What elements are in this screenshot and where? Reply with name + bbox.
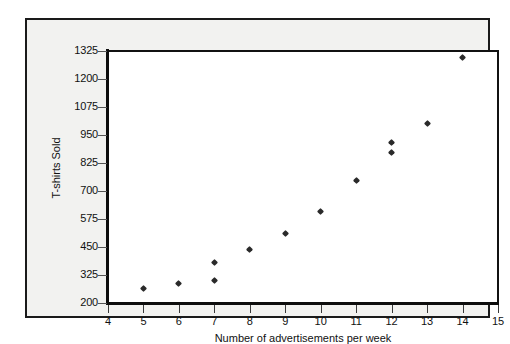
x-tick-mark bbox=[498, 305, 499, 313]
y-tick-mark bbox=[98, 247, 107, 248]
y-tick-mark bbox=[98, 107, 107, 108]
x-tick-label: 10 bbox=[306, 315, 336, 327]
x-tick-label: 5 bbox=[128, 315, 158, 327]
y-tick-label: 325 bbox=[36, 269, 98, 280]
plot-border-top bbox=[108, 50, 499, 52]
x-tick-mark bbox=[356, 305, 357, 313]
y-tick-label-wrap: 200 bbox=[27, 297, 98, 308]
x-tick-mark bbox=[250, 305, 251, 313]
x-tick-mark bbox=[285, 305, 286, 313]
y-tick-label: 200 bbox=[36, 297, 98, 308]
x-axis-label: Number of advertisements per week bbox=[108, 332, 498, 344]
x-tick-label: 7 bbox=[199, 315, 229, 327]
x-tick-mark bbox=[392, 305, 393, 313]
x-tick-label: 11 bbox=[341, 315, 371, 327]
x-tick-label: 4 bbox=[93, 315, 123, 327]
y-tick-label: 1325 bbox=[36, 45, 98, 56]
y-tick-mark bbox=[98, 219, 107, 220]
x-tick-label: 12 bbox=[377, 315, 407, 327]
x-tick-mark bbox=[179, 305, 180, 313]
x-tick-mark bbox=[108, 305, 109, 313]
y-tick-label: 1200 bbox=[36, 73, 98, 84]
y-tick-label-wrap: 325 bbox=[27, 269, 98, 280]
x-tick-mark bbox=[143, 305, 144, 313]
y-tick-mark bbox=[98, 191, 107, 192]
y-tick-label-wrap: 450 bbox=[27, 241, 98, 252]
y-tick-label: 700 bbox=[36, 185, 98, 196]
y-tick-label: 950 bbox=[36, 129, 98, 140]
y-tick-label: 575 bbox=[36, 213, 98, 224]
x-tick-label: 14 bbox=[448, 315, 478, 327]
x-tick-mark bbox=[463, 305, 464, 313]
x-tick-mark bbox=[321, 305, 322, 313]
x-tick-label: 8 bbox=[235, 315, 265, 327]
x-tick-label: 15 bbox=[483, 315, 510, 327]
y-tick-label-wrap: 575 bbox=[27, 213, 98, 224]
y-tick-label-wrap: 700 bbox=[27, 185, 98, 196]
y-axis-line bbox=[106, 49, 109, 305]
chart-frame: 200325450575700825950107512001325 456789… bbox=[25, 18, 490, 318]
x-tick-label: 6 bbox=[164, 315, 194, 327]
y-tick-label-wrap: 950 bbox=[27, 129, 98, 140]
y-tick-mark bbox=[98, 303, 107, 304]
plot-area bbox=[108, 51, 498, 303]
x-tick-mark bbox=[427, 305, 428, 313]
y-tick-mark bbox=[98, 79, 107, 80]
y-tick-label-wrap: 1075 bbox=[27, 101, 98, 112]
y-tick-label-wrap: 1325 bbox=[27, 45, 98, 56]
x-tick-label: 9 bbox=[270, 315, 300, 327]
y-tick-mark bbox=[98, 135, 107, 136]
y-tick-label-wrap: 825 bbox=[27, 157, 98, 168]
y-tick-label: 1075 bbox=[36, 101, 98, 112]
y-tick-mark bbox=[98, 51, 107, 52]
x-axis-line bbox=[106, 302, 499, 305]
y-axis-label: T-shirts Sold bbox=[50, 108, 62, 228]
y-tick-label: 825 bbox=[36, 157, 98, 168]
y-tick-label-wrap: 1200 bbox=[27, 73, 98, 84]
y-tick-label: 450 bbox=[36, 241, 98, 252]
y-tick-mark bbox=[98, 163, 107, 164]
y-tick-mark bbox=[98, 275, 107, 276]
x-tick-label: 13 bbox=[412, 315, 442, 327]
x-tick-mark bbox=[214, 305, 215, 313]
plot-border-right bbox=[497, 50, 499, 304]
